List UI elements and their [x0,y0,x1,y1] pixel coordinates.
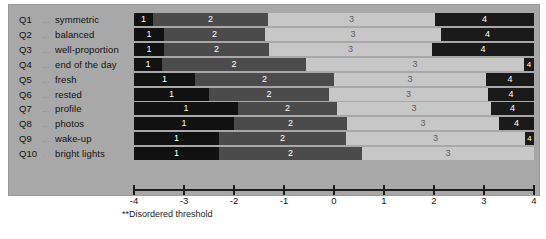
row-dots: ... [42,89,55,102]
bar-segment-4: 4 [499,117,534,130]
bar-segment-1: 1 [134,43,164,56]
row-dots: ... [42,29,55,42]
bar-segment-1: 1 [134,132,219,145]
bar-segment-3: 3 [347,117,499,130]
row-label: Q1...symmetric [19,13,139,26]
axis-tick-label: 4 [524,195,544,206]
bar-segment-4: 4 [441,28,534,41]
bar-segment-4: 4 [435,13,534,26]
chart-figure: Q1...symmetric1234Q2...balanced1234Q3...… [8,4,540,196]
row-label: Q4...end of the day [19,58,139,71]
chart-row: Q1...symmetric1234 [9,13,539,26]
bar-segment-2: 2 [209,88,329,101]
bar-segment-2: 2 [219,132,346,145]
axis-tick [483,185,485,195]
axis-tick [433,185,435,195]
bar-segment-4: 4 [486,73,534,86]
bar-segment-3: 3 [337,102,491,115]
bar-segment-1: 1 [134,13,153,26]
axis-tick-label: -4 [124,195,144,206]
axis-tick-label: 3 [474,195,494,206]
axis-tick [533,185,535,195]
bar-segment-2: 2 [162,58,306,71]
row-bar-track: 123 [134,147,534,160]
row-item-id: Q8 [19,117,42,130]
bar-segment-1: 1 [134,147,219,160]
axis-tick-label: -3 [174,195,194,206]
axis-tick [383,185,385,195]
row-bar-track: 1234 [134,88,534,101]
row-dots: ... [42,74,55,87]
bar-segment-2: 2 [234,117,347,130]
row-dots: ... [42,118,55,131]
bar-segment-4: 4 [524,58,534,71]
chart-row: Q4...end of the day1234 [9,58,539,71]
bar-segment-2: 2 [153,13,268,26]
row-bar-track: 1234 [134,132,534,145]
row-dots: ... [42,44,55,57]
bar-segment-1: 1 [134,58,162,71]
row-dots: ... [42,59,55,72]
row-item-id: Q7 [19,102,42,115]
row-item-label: fresh [55,74,77,85]
row-bar-track: 1234 [134,28,534,41]
chart-row: Q10.bright lights123 [9,147,539,160]
row-item-id: Q4 [19,58,42,71]
bar-segment-3: 3 [362,147,534,160]
row-bar-track: 1234 [134,73,534,86]
axis-tick [133,185,135,195]
row-item-id: Q5 [19,73,42,86]
bar-segment-2: 2 [195,73,334,86]
bar-segment-2: 2 [219,147,362,160]
bar-segment-4: 4 [432,43,534,56]
row-label: Q6...rested [19,88,139,101]
axis-tick-label: -2 [224,195,244,206]
axis-tick-label: 0 [324,195,344,206]
bar-segment-4: 4 [488,88,534,101]
bar-segment-2: 2 [164,43,269,56]
row-dots: ... [42,14,55,27]
chart-row: Q2...balanced1234 [9,28,539,41]
bar-segment-1: 1 [134,28,164,41]
chart-row: Q7...profile1234 [9,102,539,115]
row-dots: ... [42,103,55,116]
row-item-label: profile [55,103,82,114]
bar-segment-3: 3 [268,13,435,26]
row-item-label: photos [55,118,84,129]
row-label: Q5...fresh [19,73,139,86]
bar-segment-1: 1 [134,102,238,115]
chart-row: Q6...rested1234 [9,88,539,101]
chart-row: Q9...wake-up1234 [9,132,539,145]
chart-row: Q3...well-proportion1234 [9,43,539,56]
row-item-id: Q10 [19,147,42,160]
row-item-id: Q6 [19,88,42,101]
row-bar-track: 1234 [134,102,534,115]
row-dots: ... [42,133,55,146]
row-item-id: Q1 [19,13,42,26]
bar-segment-1: 1 [134,88,209,101]
row-label: Q7...profile [19,102,139,115]
row-item-label: balanced [55,29,94,40]
axis-tick [183,185,185,195]
axis-tick-label: 2 [424,195,444,206]
row-label: Q8...photos [19,117,139,130]
row-dots: . [42,148,55,161]
x-axis: -4-3-2-101234 [9,185,539,195]
row-item-id: Q9 [19,132,42,145]
bar-segment-3: 3 [269,43,432,56]
chart-rows: Q1...symmetric1234Q2...balanced1234Q3...… [9,5,539,185]
row-bar-track: 1234 [134,13,534,26]
row-item-label: well-proportion [55,44,119,55]
row-item-label: rested [55,89,82,100]
bar-segment-2: 2 [238,102,337,115]
bar-segment-4: 4 [525,132,534,145]
axis-tick [283,185,285,195]
bar-segment-1: 1 [134,73,195,86]
axis-tick [233,185,235,195]
bar-segment-3: 3 [346,132,525,145]
row-item-label: bright lights [55,148,105,159]
row-item-label: symmetric [55,14,99,25]
bar-segment-3: 3 [265,28,441,41]
row-item-id: Q2 [19,28,42,41]
axis-tick-label: 1 [374,195,394,206]
